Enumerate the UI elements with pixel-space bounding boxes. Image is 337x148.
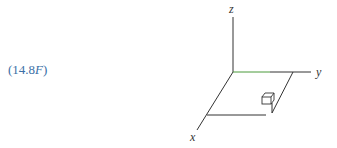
box-object — [262, 93, 274, 104]
z-axis-label: z — [228, 2, 234, 16]
x-axis-label: x — [189, 130, 196, 144]
plane-edge-right — [272, 72, 293, 113]
coordinate-diagram: z y x — [0, 0, 337, 148]
x-axis — [197, 72, 233, 130]
y-axis-label: y — [315, 65, 322, 79]
